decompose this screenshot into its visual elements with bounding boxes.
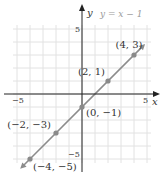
data-point xyxy=(79,104,84,109)
point-label: (4, 3) xyxy=(116,39,143,50)
x-tick-min: −5 xyxy=(12,96,24,105)
y-tick-min: −5 xyxy=(68,150,80,159)
data-point xyxy=(27,156,32,161)
x-axis-label: x xyxy=(152,96,158,107)
axis-labels: −5 5 5 −5 x y y = x − 1 xyxy=(12,7,158,159)
point-label: (0, −1) xyxy=(86,107,121,118)
data-point xyxy=(131,52,136,57)
x-tick-max: 5 xyxy=(143,96,148,105)
data-point xyxy=(105,78,110,83)
equation-label: y = x − 1 xyxy=(99,9,142,19)
data-point xyxy=(53,130,58,135)
y-axis-label: y xyxy=(86,7,93,18)
y-axis-arrow-icon xyxy=(79,4,85,11)
point-label: (−4, −5) xyxy=(33,161,77,172)
point-label: (2, 1) xyxy=(78,66,105,77)
y-tick-max: 5 xyxy=(75,25,80,34)
coordinate-plane: −5 5 5 −5 x y y = x − 1 (−4, −5)(−2, −3)… xyxy=(0,0,164,177)
point-label: (−2, −3) xyxy=(7,119,51,130)
